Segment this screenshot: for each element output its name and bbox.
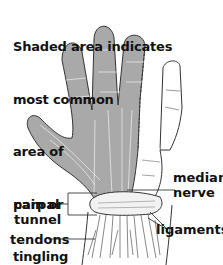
caption-line-1: Shaded area indicates — [13, 38, 172, 56]
caption-line-3: area of — [13, 143, 172, 161]
caption-line-2: most common — [13, 91, 172, 109]
label-tunnel: tunnel — [14, 212, 61, 227]
label-tendons: tendons — [10, 232, 70, 247]
label-carpal-tunnel: carpal tunnel — [14, 197, 61, 227]
label-carpal: carpal — [14, 197, 61, 212]
label-median-nerve: median nerve — [173, 170, 223, 200]
caption-line-5: tingling — [13, 248, 172, 265]
label-ligaments: ligaments — [156, 222, 223, 237]
label-median: median — [173, 170, 223, 185]
cts-hand-diagram: Shaded area indicates most common area o… — [0, 0, 223, 265]
label-nerve: nerve — [173, 185, 223, 200]
